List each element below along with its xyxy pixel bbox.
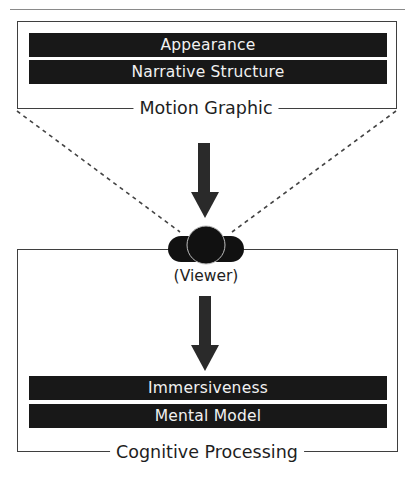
arrow-down-icon: [191, 143, 219, 218]
cognitive-processing-caption: Cognitive Processing: [110, 441, 304, 463]
narrative-structure-label: Narrative Structure: [132, 63, 285, 81]
immersiveness-label: Immersiveness: [148, 379, 268, 397]
narrative-structure-bar: Narrative Structure: [29, 60, 387, 84]
motion-graphic-caption: Motion Graphic: [133, 97, 278, 119]
field-of-view-lines: [17, 111, 396, 232]
mental-model-bar: Mental Model: [29, 404, 387, 428]
appearance-label: Appearance: [160, 36, 255, 54]
immersiveness-bar: Immersiveness: [29, 376, 387, 400]
appearance-bar: Appearance: [29, 33, 387, 57]
mental-model-label: Mental Model: [155, 407, 261, 425]
top-divider: [10, 9, 405, 10]
viewer-label: (Viewer): [174, 266, 239, 286]
